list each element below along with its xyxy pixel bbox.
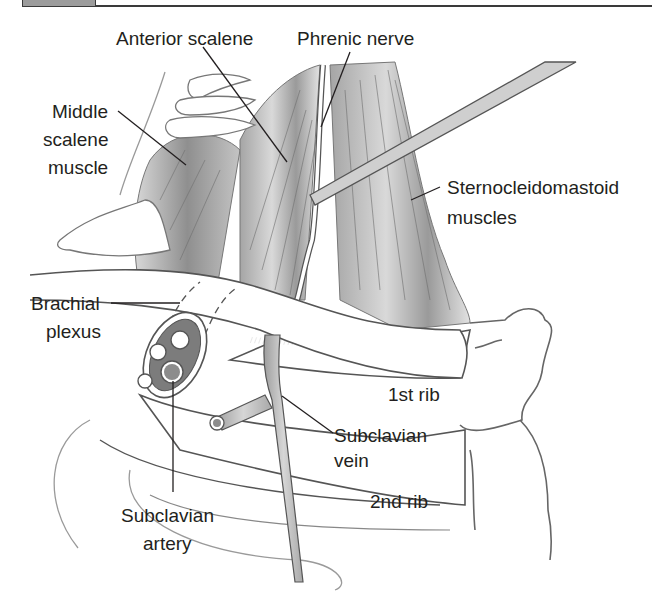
plexus-trunk-2 — [171, 331, 189, 349]
plexus-trunk-3 — [138, 374, 152, 388]
label-sternocleidomastoid-1: Sternocleidomastoid — [447, 177, 619, 198]
label-middle-scalene-2: scalene — [43, 129, 109, 150]
label-second-rib: 2nd rib — [370, 491, 428, 512]
label-phrenic-nerve: Phrenic nerve — [297, 28, 414, 49]
neurovascular-bundle — [131, 302, 220, 407]
label-brachial-plexus-2: plexus — [46, 321, 101, 342]
anatomy-illustration: Anterior scalene Phrenic nerve Middle sc… — [0, 0, 652, 604]
label-subclavian-vein-2: vein — [334, 450, 369, 471]
label-subclavian-artery-1: Subclavian — [121, 505, 214, 526]
label-sternocleidomastoid-2: muscles — [447, 207, 517, 228]
label-brachial-plexus-1: Brachial — [31, 293, 100, 314]
vertebra-outline — [460, 309, 552, 560]
plexus-trunk-1 — [150, 344, 166, 360]
label-first-rib: 1st rib — [388, 384, 440, 405]
label-middle-scalene-3: muscle — [48, 157, 108, 178]
label-middle-scalene-1: Middle — [52, 101, 108, 122]
label-anterior-scalene: Anterior scalene — [116, 28, 253, 49]
label-subclavian-artery-2: artery — [143, 533, 192, 554]
label-subclavian-vein-1: Subclavian — [334, 425, 427, 446]
